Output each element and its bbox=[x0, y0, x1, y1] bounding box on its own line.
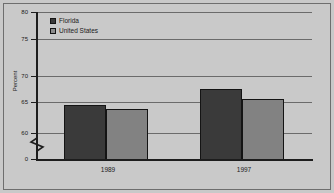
y-tick-label-75: 75 bbox=[4, 36, 28, 42]
y-tick-mark-75 bbox=[31, 39, 37, 40]
gridline-80 bbox=[36, 12, 312, 13]
bar-florida-1997 bbox=[200, 89, 242, 160]
legend-swatch-icon-florida bbox=[50, 18, 56, 24]
y-tick-mark-65 bbox=[31, 102, 37, 103]
y-tick-mark-0 bbox=[31, 159, 37, 160]
legend-item-florida: Florida bbox=[50, 16, 98, 25]
y-tick-label-80: 80 bbox=[4, 9, 28, 15]
legend-label-united-states: United States bbox=[59, 27, 98, 34]
y-axis-title: Percent bbox=[12, 53, 18, 109]
legend-item-united-states: United States bbox=[50, 26, 98, 35]
gridline-70 bbox=[36, 76, 312, 77]
x-tick-label-1989: 1989 bbox=[78, 166, 138, 173]
chart-figure: 80 75 70 65 60 0 Percent 1989 1997 Flori… bbox=[0, 0, 334, 193]
legend-swatch-icon-united-states bbox=[50, 28, 56, 34]
gridline-75 bbox=[36, 39, 312, 40]
y-tick-label-0: 0 bbox=[4, 156, 28, 162]
bar-florida-1989 bbox=[64, 105, 106, 160]
axis-break-icon bbox=[28, 133, 46, 155]
legend: Florida United States bbox=[48, 15, 100, 37]
y-tick-label-60: 60 bbox=[4, 130, 28, 136]
y-tick-mark-70 bbox=[31, 76, 37, 77]
bar-united-states-1997 bbox=[242, 99, 284, 160]
legend-label-florida: Florida bbox=[59, 17, 79, 24]
x-axis-line bbox=[36, 159, 313, 161]
bar-united-states-1989 bbox=[106, 109, 148, 160]
x-tick-label-1997: 1997 bbox=[214, 166, 274, 173]
y-tick-mark-80 bbox=[31, 12, 37, 13]
